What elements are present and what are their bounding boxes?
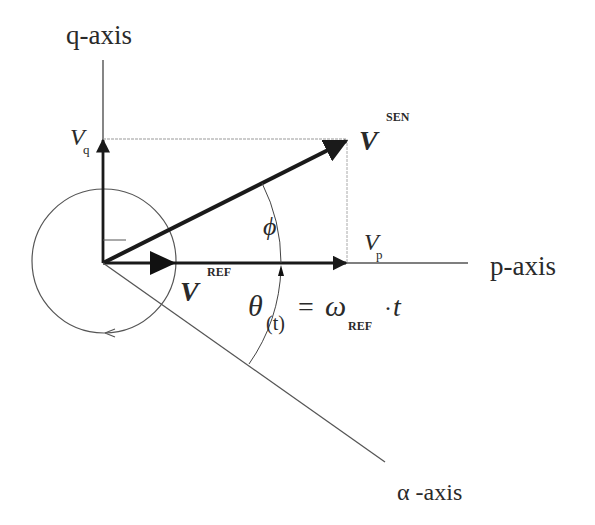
diagram-canvas: q-axis p-axis α -axis V SEN V REF V q V … <box>0 0 595 525</box>
equals-sign: = <box>298 291 314 322</box>
vsen-label: V <box>359 125 380 156</box>
vsen-superscript: SEN <box>386 110 410 124</box>
vq-subscript: q <box>83 142 90 157</box>
phasor-diagram: q-axis p-axis α -axis V SEN V REF V q V … <box>0 0 595 525</box>
theta-symbol: θ <box>248 289 263 322</box>
multiply-dot: · <box>384 295 392 321</box>
omega-symbol: ω <box>325 289 346 322</box>
theta-arrow-icon <box>278 265 284 276</box>
vsen-vector <box>103 141 346 263</box>
time-variable: t <box>393 291 402 322</box>
vp-subscript: p <box>376 247 383 262</box>
vref-superscript: REF <box>207 265 231 279</box>
omega-subscript: REF <box>348 319 372 333</box>
vref-arrowhead-icon <box>150 251 176 275</box>
alpha-axis-label: α -axis <box>397 479 462 505</box>
q-axis-label: q-axis <box>66 20 132 50</box>
vref-label: V <box>180 276 201 307</box>
theta-subscript: (t) <box>266 312 285 335</box>
p-axis-label: p-axis <box>490 251 556 281</box>
phi-label: ϕ <box>263 212 276 241</box>
